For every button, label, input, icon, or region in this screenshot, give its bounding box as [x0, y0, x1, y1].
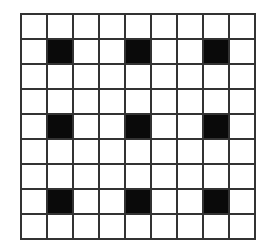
grid-cell-filled [47, 189, 73, 214]
grid-cell-empty [21, 39, 47, 64]
grid-cell-empty [47, 64, 73, 89]
grid-cell-empty [177, 39, 203, 64]
grid-cell-empty [229, 114, 255, 139]
grid-cell-empty [203, 89, 229, 114]
grid-cell-empty [73, 14, 99, 39]
grid-cell-empty [151, 189, 177, 214]
grid-cell-empty [47, 139, 73, 164]
grid-cell-empty [73, 39, 99, 64]
grid-cell-empty [229, 39, 255, 64]
grid-cell-empty [151, 39, 177, 64]
grid-cell-empty [151, 89, 177, 114]
grid-cell-empty [99, 14, 125, 39]
grid-cell-empty [229, 89, 255, 114]
grid-cell-filled [203, 39, 229, 64]
grid-cell-empty [125, 14, 151, 39]
grid-cell-empty [21, 64, 47, 89]
grid-cell-empty [21, 14, 47, 39]
grid-diagram [20, 13, 256, 240]
grid-cell-filled [47, 39, 73, 64]
grid-cell-empty [73, 214, 99, 239]
grid-cell-empty [73, 164, 99, 189]
grid-cell-empty [177, 114, 203, 139]
grid-cell-empty [21, 214, 47, 239]
grid-cell-empty [99, 164, 125, 189]
grid-cell-empty [73, 189, 99, 214]
grid-cell-empty [125, 139, 151, 164]
grid-cell-empty [47, 14, 73, 39]
grid-cell-filled [47, 114, 73, 139]
grid-cell-filled [203, 189, 229, 214]
grid-cell-empty [21, 114, 47, 139]
grid-cell-empty [229, 64, 255, 89]
grid-cell-empty [151, 164, 177, 189]
grid-cell-empty [47, 89, 73, 114]
grid-cell-empty [177, 14, 203, 39]
grid-cell-empty [21, 164, 47, 189]
grid-cell-empty [73, 139, 99, 164]
grid-cell-empty [47, 214, 73, 239]
grid-cell-empty [99, 189, 125, 214]
grid-cell-filled [125, 114, 151, 139]
grid-cell-filled [125, 39, 151, 64]
grid-cell-empty [99, 89, 125, 114]
grid-cell-empty [151, 139, 177, 164]
grid-cell-empty [99, 64, 125, 89]
grid-cell-empty [125, 164, 151, 189]
grid-cell-empty [99, 214, 125, 239]
grid-cell-empty [203, 14, 229, 39]
grid-cell-empty [177, 139, 203, 164]
grid-cell-empty [177, 89, 203, 114]
grid-cell-empty [151, 214, 177, 239]
grid-cell-empty [73, 89, 99, 114]
grid-cell-empty [151, 14, 177, 39]
grid-cell-empty [177, 164, 203, 189]
grid-cell-empty [203, 139, 229, 164]
grid-cell-empty [151, 64, 177, 89]
grid-cell-empty [125, 64, 151, 89]
grid-cell-filled [203, 114, 229, 139]
grid-cell-empty [203, 164, 229, 189]
grid-cell-empty [203, 64, 229, 89]
grid-cell-empty [229, 214, 255, 239]
grid-cell-empty [21, 189, 47, 214]
grid-cell-empty [177, 189, 203, 214]
grid-cell-empty [125, 89, 151, 114]
grid-cell-empty [21, 89, 47, 114]
grid-cell-empty [229, 139, 255, 164]
grid-cell-empty [99, 39, 125, 64]
grid-cell-empty [73, 114, 99, 139]
grid-cell-empty [47, 164, 73, 189]
grid-cell-empty [73, 64, 99, 89]
grid-cell-empty [177, 64, 203, 89]
grid-cell-filled [125, 189, 151, 214]
grid-cell-empty [151, 114, 177, 139]
grid-cell-empty [229, 14, 255, 39]
grid-cell-empty [229, 189, 255, 214]
grid-cell-empty [99, 114, 125, 139]
grid-cell-empty [99, 139, 125, 164]
grid-cell-empty [177, 214, 203, 239]
grid-cell-empty [125, 214, 151, 239]
grid-cell-empty [203, 214, 229, 239]
grid-cell-empty [229, 164, 255, 189]
grid-cell-empty [21, 139, 47, 164]
